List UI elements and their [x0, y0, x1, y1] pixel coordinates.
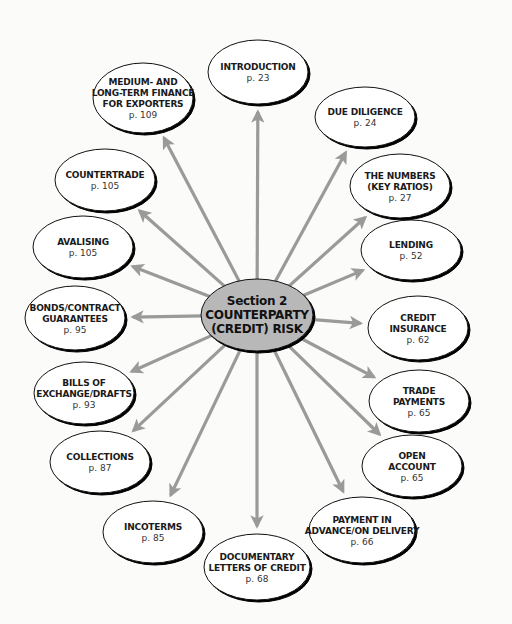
node-title: PAYMENT IN [332, 515, 391, 525]
node-page-ref: p. 65 [408, 408, 431, 418]
node-medium-long-term-finance[interactable]: MEDIUM- ANDLONG-TERM FINANCEFOR EXPORTER… [92, 63, 195, 133]
counterparty-risk-diagram: INTRODUCTIONp. 23DUE DILIGENCEp. 24THE N… [0, 0, 512, 624]
node-page-ref: p. 62 [407, 335, 430, 345]
node-title: AVALISING [57, 237, 109, 247]
center-title-line: COUNTERPARTY [205, 308, 309, 322]
node-title: BONDS/CONTRACT [29, 303, 121, 313]
arrow-to-payment-in-advance [273, 348, 343, 492]
center-title-line: (CREDIT) RISK [211, 322, 304, 336]
node-title: COUNTERTRADE [65, 170, 144, 180]
node-title: ACCOUNT [388, 462, 436, 472]
node-title: COLLECTIONS [66, 452, 133, 462]
node-due-diligence[interactable]: DUE DILIGENCEp. 24 [315, 87, 415, 147]
node-credit-insurance[interactable]: CREDITINSURANCEp. 62 [368, 296, 468, 360]
node-trade-payments[interactable]: TRADEPAYMENTSp. 65 [369, 370, 469, 432]
node-page-ref: p. 105 [69, 248, 98, 258]
arrow-to-bonds-contract-guarantees [133, 316, 203, 317]
arrow-to-open-account [286, 344, 379, 435]
node-ellipse [361, 220, 461, 280]
node-ellipse [208, 40, 308, 104]
node-page-ref: p. 93 [73, 400, 96, 410]
node-title: INTRODUCTION [220, 62, 295, 72]
node-title: FOR EXPORTERS [103, 99, 184, 109]
node-lending[interactable]: LENDINGp. 52 [361, 220, 461, 280]
node-title: GUARANTEES [42, 314, 108, 324]
node-page-ref: p. 105 [91, 181, 120, 191]
arrow-to-introduction [257, 112, 258, 281]
node-countertrade[interactable]: COUNTERTRADEp. 105 [55, 149, 155, 211]
node-avalising[interactable]: AVALISINGp. 105 [33, 216, 133, 278]
arrow-to-collections [133, 343, 226, 430]
node-open-account[interactable]: OPENACCOUNTp. 65 [362, 435, 462, 497]
arrow-to-trade-payments [298, 337, 374, 377]
node-title: TRADE [403, 386, 436, 396]
node-page-ref: p. 27 [389, 193, 412, 203]
node-title: ADVANCE/ON DELIVERY [305, 526, 420, 536]
node-title: CREDIT [400, 313, 437, 323]
arrow-to-incoterms [171, 348, 242, 495]
node-introduction[interactable]: INTRODUCTIONp. 23 [208, 40, 308, 104]
node-payment-in-advance[interactable]: PAYMENT INADVANCE/ON DELIVERYp. 66 [305, 497, 420, 563]
node-page-ref: p. 68 [246, 574, 269, 584]
node-title: EXCHANGE/DRAFTS [36, 389, 131, 399]
node-incoterms[interactable]: INCOTERMSp. 85 [103, 501, 203, 563]
arrow-to-avalising [133, 266, 211, 297]
center-node: Section 2COUNTERPARTY(CREDIT) RISK [201, 279, 313, 351]
node-documentary-letters-of-credit[interactable]: DOCUMENTARYLETTERS OF CREDITp. 68 [204, 534, 310, 600]
node-page-ref: p. 109 [129, 110, 158, 120]
node-ellipse [33, 216, 133, 278]
node-title: MEDIUM- AND [109, 77, 178, 87]
node-ellipse [315, 87, 415, 147]
node-page-ref: p. 24 [354, 118, 377, 128]
node-title: (KEY RATIOS) [367, 182, 433, 192]
node-ellipse [50, 431, 150, 493]
node-title: THE NUMBERS [365, 171, 436, 181]
node-collections[interactable]: COLLECTIONSp. 87 [50, 431, 150, 493]
arrow-to-medium-long-term-finance [164, 138, 240, 283]
node-title: LENDING [389, 240, 433, 250]
node-bills-of-exchange[interactable]: BILLS OFEXCHANGE/DRAFTSp. 93 [34, 362, 134, 424]
node-page-ref: p. 87 [89, 463, 112, 473]
node-title: INCOTERMS [124, 522, 182, 532]
node-the-numbers[interactable]: THE NUMBERS(KEY RATIOS)p. 27 [350, 154, 450, 218]
node-ellipse [93, 63, 193, 133]
node-title: INSURANCE [389, 324, 446, 334]
node-ellipse [103, 501, 203, 563]
node-bonds-contract-guarantees[interactable]: BONDS/CONTRACTGUARANTEESp. 95 [25, 286, 125, 350]
arrow-to-credit-insurance [311, 319, 361, 323]
node-page-ref: p. 52 [400, 251, 423, 261]
node-page-ref: p. 65 [401, 473, 424, 483]
node-ellipse [55, 149, 155, 211]
node-page-ref: p. 66 [351, 537, 374, 547]
node-title: LONG-TERM FINANCE [92, 88, 195, 98]
node-title: OPEN [398, 451, 425, 461]
node-title: BILLS OF [62, 378, 106, 388]
node-title: DUE DILIGENCE [327, 107, 402, 117]
node-title: LETTERS OF CREDIT [208, 563, 306, 573]
node-page-ref: p. 85 [142, 533, 165, 543]
arrow-to-due-diligence [275, 153, 346, 283]
center-title-line: Section 2 [227, 294, 287, 308]
arrow-to-the-numbers [288, 217, 365, 287]
node-page-ref: p. 23 [247, 73, 270, 83]
arrow-to-lending [302, 270, 363, 296]
node-title: PAYMENTS [393, 397, 445, 407]
node-page-ref: p. 95 [64, 325, 87, 335]
node-title: DOCUMENTARY [220, 552, 296, 562]
